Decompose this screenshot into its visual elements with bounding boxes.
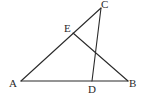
label-a: A bbox=[9, 77, 17, 89]
segment-cd bbox=[92, 8, 101, 81]
label-e: E bbox=[64, 22, 71, 34]
segment-ac bbox=[21, 8, 101, 81]
label-d: D bbox=[88, 83, 96, 95]
label-c: C bbox=[101, 0, 108, 10]
triangle-diagram: A B C D E bbox=[0, 0, 143, 111]
segment-eb bbox=[73, 33, 128, 81]
label-b: B bbox=[129, 77, 136, 89]
